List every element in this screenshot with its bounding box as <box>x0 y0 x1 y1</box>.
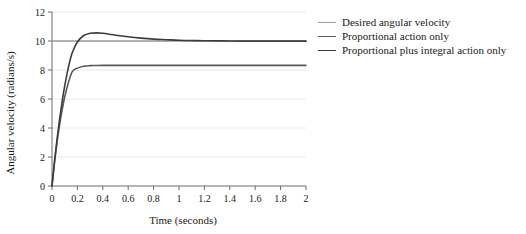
chart-figure: 00.20.40.60.811.21.41.61.82 024681012 Ti… <box>0 0 526 234</box>
y-axis-ticks: 024681012 <box>35 7 52 192</box>
x-tick-label: 1.2 <box>198 193 211 204</box>
chart-legend: Desired angular velocity Proportional ac… <box>318 16 524 58</box>
data-series <box>52 33 306 186</box>
y-tick-label: 4 <box>40 123 45 134</box>
legend-item-proportional: Proportional action only <box>318 30 524 43</box>
legend-item-desired: Desired angular velocity <box>318 16 524 29</box>
x-tick-label: 0 <box>50 193 55 204</box>
x-axis-ticks: 00.20.40.60.811.21.41.61.82 <box>50 186 309 204</box>
y-axis-title: Angular velocity (radians/s) <box>4 51 17 175</box>
legend-label-proportional: Proportional action only <box>342 30 449 43</box>
x-axis-title: Time (seconds) <box>149 214 217 227</box>
legend-swatch-desired <box>318 22 336 23</box>
legend-swatch-proportional <box>318 36 336 37</box>
y-tick-label: 0 <box>40 181 45 192</box>
x-tick-label: 2 <box>304 193 309 204</box>
x-tick-label: 0.4 <box>97 193 110 204</box>
y-tick-label: 2 <box>40 152 45 163</box>
x-tick-label: 1.4 <box>224 193 237 204</box>
legend-swatch-proportional-integral <box>318 50 336 51</box>
legend-item-proportional-integral: Proportional plus integral action only <box>318 44 524 57</box>
x-tick-label: 0.2 <box>71 193 84 204</box>
x-tick-label: 1.8 <box>274 193 287 204</box>
y-tick-label: 6 <box>40 94 45 105</box>
x-tick-label: 0.8 <box>147 193 160 204</box>
x-tick-label: 1 <box>177 193 182 204</box>
legend-label-proportional-integral: Proportional plus integral action only <box>342 44 506 57</box>
legend-label-desired: Desired angular velocity <box>342 16 450 29</box>
y-tick-label: 12 <box>35 7 45 18</box>
x-tick-label: 0.6 <box>122 193 135 204</box>
y-tick-label: 10 <box>35 36 45 47</box>
y-tick-label: 8 <box>40 65 45 76</box>
x-tick-label: 1.6 <box>249 193 262 204</box>
series-line-2 <box>52 33 306 186</box>
series-line-1 <box>52 65 306 186</box>
